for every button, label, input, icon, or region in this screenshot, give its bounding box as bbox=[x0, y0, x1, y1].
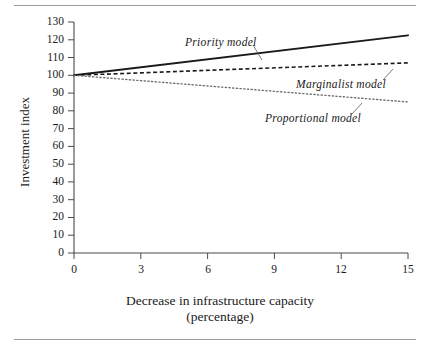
y-tick-label: 10 bbox=[38, 229, 64, 241]
y-axis-title: Investment index bbox=[17, 72, 33, 212]
y-tick-label: 80 bbox=[38, 105, 64, 117]
x-tick-label: 6 bbox=[196, 264, 220, 276]
x-tick-label: 0 bbox=[62, 264, 86, 276]
y-tick-label: 20 bbox=[38, 211, 64, 223]
y-tick-label: 100 bbox=[38, 69, 64, 81]
y-tick-label: 30 bbox=[38, 194, 64, 206]
y-tick-marks bbox=[68, 22, 74, 253]
y-tick-label: 60 bbox=[38, 140, 64, 152]
y-tick-label: 90 bbox=[38, 87, 64, 99]
y-tick-label: 50 bbox=[38, 158, 64, 170]
figure-container: 130 120 110 100 90 80 70 60 50 40 30 20 … bbox=[0, 0, 430, 349]
x-tick-label: 15 bbox=[396, 264, 420, 276]
y-tick-label: 130 bbox=[38, 16, 64, 28]
series-annotation-marginalist: Marginalist model bbox=[296, 78, 386, 90]
x-axis-title: Decrease in infrastructure capacity (per… bbox=[40, 293, 400, 325]
y-tick-label: 120 bbox=[38, 34, 64, 46]
x-tick-label: 3 bbox=[129, 264, 153, 276]
y-tick-label: 110 bbox=[38, 52, 64, 64]
x-tick-label: 9 bbox=[262, 264, 286, 276]
series-annotation-priority: Priority model bbox=[185, 36, 257, 48]
x-tick-label: 12 bbox=[329, 264, 353, 276]
y-tick-label: 40 bbox=[38, 176, 64, 188]
series-annotation-proportional: Proportional model bbox=[265, 112, 361, 124]
x-tick-marks bbox=[74, 253, 408, 259]
y-tick-label: 70 bbox=[38, 123, 64, 135]
x-axis-title-line1: Decrease in infrastructure capacity bbox=[126, 293, 314, 308]
x-axis-title-line2: (percentage) bbox=[40, 309, 400, 325]
y-tick-label: 0 bbox=[38, 247, 64, 259]
